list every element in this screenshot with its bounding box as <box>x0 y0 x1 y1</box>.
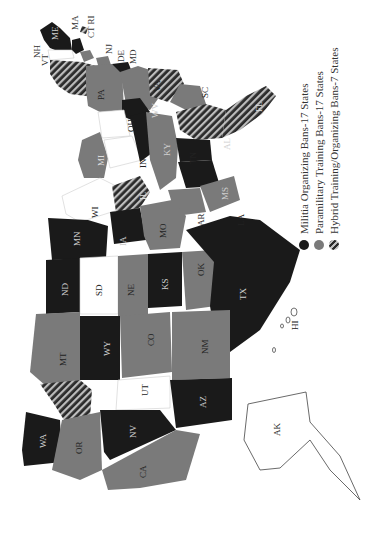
label-hi: HI <box>290 321 300 331</box>
label-ia: IA <box>118 236 128 246</box>
state-id <box>40 380 92 420</box>
state-fl <box>222 86 276 138</box>
label-sc: SC <box>200 87 210 98</box>
label-ky: KY <box>162 143 172 156</box>
label-nj: NJ <box>104 44 114 54</box>
legend-label: Paramilitary Training Bans-17 States <box>313 71 325 234</box>
label-al: AL <box>222 138 232 150</box>
state-ct <box>80 50 94 62</box>
legend-item-hybrid: Hybrid Training/Organizing Bans-7 States <box>326 0 341 250</box>
label-nd: ND <box>60 283 70 296</box>
label-md: MD <box>128 49 138 64</box>
state-ia <box>110 208 146 244</box>
label-ut: UT <box>140 384 150 396</box>
label-nm: NM <box>200 339 210 354</box>
label-ma: MA <box>70 15 80 30</box>
label-ca: CA <box>138 465 148 478</box>
label-or: OR <box>74 441 84 454</box>
label-me: ME <box>50 26 60 40</box>
label-ks: KS <box>160 278 170 290</box>
paramilitary-swatch-icon <box>314 240 324 250</box>
label-va: VA <box>152 80 162 92</box>
label-ar: AR <box>196 213 206 226</box>
label-il: IL <box>138 192 148 201</box>
label-wv: WV <box>150 103 160 118</box>
label-oh: OH <box>126 119 136 132</box>
legend-label: Militia Organizing Bans-17 States <box>298 84 310 234</box>
state-ak <box>244 392 360 500</box>
label-wi: WI <box>90 207 100 219</box>
label-wy: WY <box>102 341 112 356</box>
state-mi <box>78 132 108 178</box>
label-mt: MT <box>58 352 68 366</box>
label-tn: TN <box>188 152 198 164</box>
state-wy <box>80 316 120 380</box>
label-nv: NV <box>128 425 138 438</box>
label-vt: VT <box>40 54 50 66</box>
label-pa: PA <box>96 89 106 100</box>
label-sd: SD <box>94 284 104 296</box>
label-mi: MI <box>96 155 106 166</box>
label-ak: AK <box>272 423 282 436</box>
state-pa <box>86 64 124 112</box>
label-wa: WA <box>38 434 48 448</box>
label-tx: TX <box>238 288 248 300</box>
label-la: LA <box>236 214 246 226</box>
label-de: DE <box>116 50 126 62</box>
label-in: IN <box>138 158 148 168</box>
label-ct-ri: CT RI <box>86 15 96 38</box>
legend-item-militia: Militia Organizing Bans-17 States <box>296 0 311 250</box>
state-mt <box>30 312 80 386</box>
label-mn: MN <box>72 231 82 246</box>
legend: Militia Organizing Bans-17 States Parami… <box>296 0 376 250</box>
legend-label: Hybrid Training/Organizing Bans-7 States <box>328 48 340 234</box>
label-mo: MO <box>158 223 168 238</box>
label-ne: NE <box>126 284 136 296</box>
label-ok: OK <box>196 263 206 276</box>
legend-item-paramilitary: Paramilitary Training Bans-17 States <box>311 0 326 250</box>
label-ms: MS <box>220 187 230 200</box>
label-co: CO <box>146 333 156 346</box>
label-fl: FL <box>254 101 264 112</box>
state-vt-nh <box>48 50 74 60</box>
hybrid-swatch-icon <box>329 240 339 250</box>
militia-swatch-icon <box>299 240 309 250</box>
label-az: AZ <box>198 396 208 408</box>
state-ga <box>176 104 226 140</box>
